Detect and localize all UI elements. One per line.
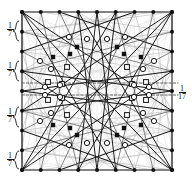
open-square-marker	[144, 98, 149, 103]
brace-path	[13, 107, 19, 127]
open-circle-marker	[122, 142, 127, 147]
boundary-lattice-point	[151, 168, 155, 172]
boundary-lattice-point	[170, 109, 174, 113]
open-circle-marker	[151, 118, 156, 123]
open-circle-marker	[140, 110, 145, 115]
open-circle-marker	[140, 66, 145, 71]
boundary-lattice-point	[151, 10, 155, 14]
filled-square-marker	[68, 126, 72, 130]
boundary-lattice-point	[170, 168, 174, 172]
open-circle-marker	[104, 140, 109, 145]
open-circle-marker	[131, 82, 136, 87]
brace-left-3	[12, 106, 20, 128]
open-circle-marker	[131, 94, 136, 99]
open-circle-marker	[42, 92, 47, 97]
open-square-marker	[65, 113, 70, 118]
open-circle-marker	[37, 58, 42, 63]
open-circle-marker	[57, 82, 62, 87]
boundary-lattice-point	[20, 89, 24, 93]
boundary-lattice-point	[20, 148, 24, 152]
boundary-lattice-point	[170, 69, 174, 73]
boundary-lattice-point	[58, 10, 62, 14]
brace-path	[13, 21, 19, 41]
boundary-lattice-point	[114, 10, 118, 14]
open-square-marker	[144, 80, 149, 85]
brace-left-4	[12, 150, 20, 170]
geometric-figure: 17171717117	[0, 0, 192, 183]
filled-square-marker	[51, 123, 55, 127]
open-circle-marker	[57, 94, 62, 99]
open-square-marker	[46, 80, 51, 85]
brace-left-2	[12, 60, 20, 82]
boundary-lattice-point	[20, 10, 24, 14]
filled-square-marker	[139, 55, 143, 59]
open-circle-marker	[146, 84, 151, 89]
boundary-lattice-point	[170, 10, 174, 14]
boundary-lattice-point	[170, 50, 174, 54]
boundary-lattice-point	[114, 168, 118, 172]
open-circle-marker	[42, 84, 47, 89]
filled-square-marker	[122, 52, 126, 56]
boundary-lattice-point	[133, 168, 137, 172]
fraction-denominator: 17	[175, 93, 189, 101]
filled-square-marker	[75, 45, 79, 49]
boundary-lattice-point	[76, 168, 80, 172]
fraction-numerator: 1	[175, 85, 189, 92]
boundary-lattice-point	[95, 168, 99, 172]
open-circle-marker	[84, 140, 89, 145]
filled-square-marker	[68, 52, 72, 56]
boundary-lattice-point	[170, 89, 174, 93]
open-circle-marker	[66, 142, 71, 147]
filled-square-marker	[75, 133, 79, 137]
boundary-lattice-point	[170, 129, 174, 133]
brace-path	[13, 61, 19, 81]
boundary-lattice-point	[170, 148, 174, 152]
figure-canvas	[0, 0, 192, 183]
boundary-lattice-point	[58, 168, 62, 172]
open-circle-marker	[151, 58, 156, 63]
filled-square-marker	[122, 126, 126, 130]
open-circle-marker	[104, 36, 109, 41]
boundary-lattice-point	[20, 129, 24, 133]
open-square-marker	[46, 98, 51, 103]
boundary-lattice-point	[20, 109, 24, 113]
boundary-lattice-point	[20, 30, 24, 34]
brace-path	[13, 151, 19, 169]
label-right-1: 117	[175, 85, 189, 101]
open-circle-marker	[66, 34, 71, 39]
open-square-marker	[125, 113, 130, 118]
filled-square-marker	[115, 45, 119, 49]
boundary-lattice-point	[20, 69, 24, 73]
open-square-marker	[125, 65, 130, 70]
open-circle-marker	[37, 118, 42, 123]
brace-left-1	[12, 20, 20, 42]
open-circle-marker	[122, 34, 127, 39]
boundary-lattice-point	[76, 10, 80, 14]
open-circle-marker	[84, 36, 89, 41]
boundary-lattice-point	[39, 168, 43, 172]
boundary-lattice-point	[39, 10, 43, 14]
boundary-lattice-point	[95, 10, 99, 14]
open-square-marker	[65, 65, 70, 70]
boundary-lattice-point	[170, 30, 174, 34]
boundary-lattice-point	[20, 168, 24, 172]
open-circle-marker	[48, 66, 53, 71]
boundary-lattice-point	[133, 10, 137, 14]
open-circle-marker	[48, 110, 53, 115]
boundary-lattice-point	[20, 50, 24, 54]
filled-square-marker	[139, 123, 143, 127]
open-circle-marker	[146, 92, 151, 97]
filled-square-marker	[115, 133, 119, 137]
filled-square-marker	[51, 55, 55, 59]
